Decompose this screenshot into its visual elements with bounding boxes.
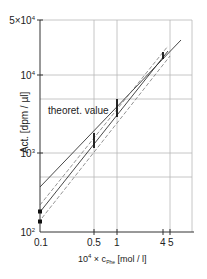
x-tick-0.5: 0.5 [87,238,101,248]
y-tick-1e3: 103 [5,148,35,159]
x-axis-title: 104 × cPhe [mol / l] [78,253,147,265]
x-tick-0.1: 0.1 [34,238,48,248]
axes [37,20,194,235]
x-tick-1: 1 [114,238,120,248]
lower-dashed-line [42,56,170,218]
x-tick-5: 5 [168,238,174,248]
upper-dashed-line [40,46,168,205]
theoretical-value-annotation: theoret. value [48,105,109,116]
x-tick-4: 4 [160,238,166,248]
y-tick-1e4: 104 [5,70,35,81]
y-tick-5e4: 5×104 [5,15,35,26]
y-tick-1e2: 102 [5,227,35,238]
